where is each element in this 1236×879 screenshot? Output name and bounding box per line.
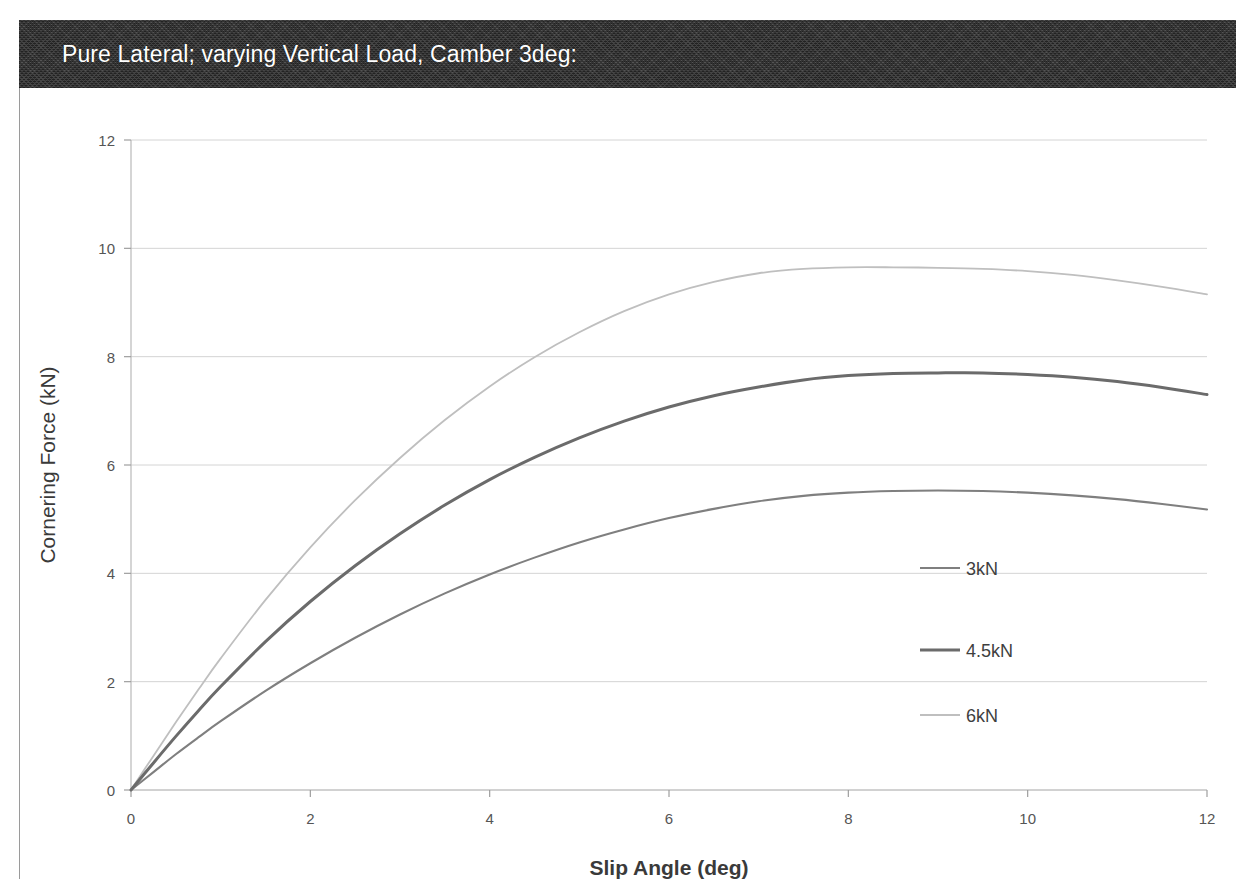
y-tick-label: 8: [107, 349, 115, 366]
x-axis-title: Slip Angle (deg): [589, 856, 748, 879]
y-tick-label: 4: [107, 565, 115, 582]
legend-label-45kN: 4.5kN: [966, 641, 1013, 661]
series-line-6kN: [131, 267, 1207, 790]
page-canvas: Pure Lateral; varying Vertical Load, Cam…: [0, 0, 1236, 879]
x-tick-label: 6: [665, 810, 673, 827]
tick-labels-layer: 024681012024681012: [98, 132, 1215, 827]
y-tick-label: 12: [98, 132, 115, 149]
x-tick-label: 10: [1019, 810, 1036, 827]
y-tick-label: 2: [107, 674, 115, 691]
page-title: Pure Lateral; varying Vertical Load, Cam…: [62, 41, 577, 68]
x-tick-label: 12: [1199, 810, 1216, 827]
grid-lines: [131, 140, 1207, 790]
x-tick-label: 2: [306, 810, 314, 827]
legend-label-6kN: 6kN: [966, 706, 998, 726]
title-band-left-cap: [0, 20, 19, 88]
y-tick-label: 6: [107, 457, 115, 474]
x-tick-label: 0: [127, 810, 135, 827]
x-tick-label: 8: [844, 810, 852, 827]
series-line-45kN: [131, 373, 1207, 790]
chart-region: 024681012024681012 3kN4.5kN6kN Slip Angl…: [20, 90, 1236, 879]
data-series-layer: [131, 267, 1207, 790]
legend-label-3kN: 3kN: [966, 559, 998, 579]
axis-ticks: [124, 140, 1207, 797]
chart-legend: 3kN4.5kN6kN: [920, 559, 1013, 726]
series-line-3kN: [131, 490, 1207, 790]
axis-titles-layer: Slip Angle (deg)Cornering Force (kN): [36, 366, 749, 879]
page-top-margin: [0, 0, 1236, 20]
y-tick-label: 10: [98, 240, 115, 257]
y-tick-label: 0: [107, 782, 115, 799]
y-axis-title: Cornering Force (kN): [36, 366, 59, 563]
x-tick-label: 4: [485, 810, 493, 827]
cornering-force-line-chart: 024681012024681012 3kN4.5kN6kN Slip Angl…: [20, 90, 1236, 879]
slide-title-band: Pure Lateral; varying Vertical Load, Cam…: [0, 20, 1236, 88]
